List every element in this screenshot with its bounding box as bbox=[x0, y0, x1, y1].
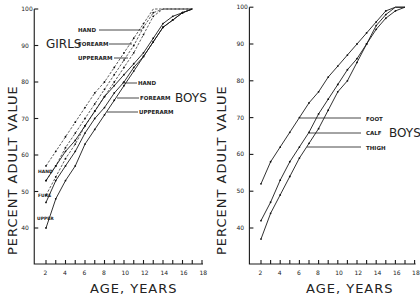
growth-charts: 40506070809010024681012141618 PERCENT AD… bbox=[0, 0, 420, 300]
data-point bbox=[113, 85, 115, 87]
data-point bbox=[113, 74, 115, 76]
y-tick-label: 40 bbox=[236, 224, 244, 231]
data-point bbox=[65, 150, 67, 152]
data-point bbox=[74, 121, 76, 123]
x-tick-label: 2 bbox=[259, 269, 263, 276]
y-tick-label: 70 bbox=[236, 114, 244, 121]
data-point bbox=[152, 41, 154, 43]
series-line bbox=[261, 7, 405, 184]
data-point bbox=[270, 212, 272, 214]
left-panel: 40506070809010024681012141618 PERCENT AD… bbox=[5, 5, 207, 296]
data-point bbox=[375, 21, 377, 23]
right-x-axis-label: AGE, YEARS bbox=[306, 281, 394, 296]
data-point bbox=[347, 54, 349, 56]
start-hand-label: HAND bbox=[38, 169, 53, 174]
x-tick-label: 10 bbox=[335, 269, 343, 276]
data-point bbox=[123, 74, 125, 76]
data-point bbox=[152, 37, 154, 39]
data-point bbox=[289, 161, 291, 163]
data-point bbox=[299, 146, 301, 148]
boys-label: BOYS bbox=[175, 91, 207, 105]
data-point bbox=[65, 180, 67, 182]
boys-upperarm-label: UPPERARM bbox=[139, 109, 174, 115]
data-point bbox=[260, 220, 262, 222]
data-point bbox=[104, 114, 106, 116]
data-point bbox=[270, 201, 272, 203]
x-tick-label: 4 bbox=[278, 269, 282, 276]
data-point bbox=[45, 227, 47, 229]
data-point bbox=[74, 150, 76, 152]
x-tick-label: 16 bbox=[393, 269, 401, 276]
calf-label: CALF bbox=[366, 130, 382, 136]
data-point bbox=[356, 43, 358, 45]
data-point bbox=[172, 19, 174, 21]
y-tick-label: 40 bbox=[21, 224, 29, 231]
data-point bbox=[318, 128, 320, 130]
data-point bbox=[113, 92, 115, 94]
data-point bbox=[113, 81, 115, 83]
x-tick-label: 16 bbox=[180, 269, 188, 276]
data-point bbox=[289, 176, 291, 178]
data-point bbox=[152, 12, 154, 14]
data-point bbox=[182, 12, 184, 14]
right-boys-label: BOYS bbox=[389, 126, 420, 140]
y-tick-label: 100 bbox=[21, 5, 33, 12]
data-point bbox=[143, 52, 145, 54]
data-point bbox=[133, 37, 135, 39]
girls-label: GIRLS bbox=[46, 37, 81, 51]
x-tick-label: 18 bbox=[200, 269, 208, 276]
data-point bbox=[308, 102, 310, 104]
y-tick-label: 60 bbox=[236, 150, 244, 157]
x-tick-label: 2 bbox=[44, 269, 48, 276]
y-tick-label: 50 bbox=[21, 188, 29, 195]
data-point bbox=[65, 136, 67, 138]
data-point bbox=[45, 202, 47, 204]
data-point bbox=[299, 157, 301, 159]
data-point bbox=[123, 67, 125, 69]
data-point bbox=[327, 109, 329, 111]
data-point bbox=[143, 23, 145, 25]
x-tick-label: 14 bbox=[161, 269, 169, 276]
data-point bbox=[356, 58, 358, 60]
data-point bbox=[55, 180, 57, 182]
data-point bbox=[133, 63, 135, 65]
right-y-axis-label: PERCENT ADULT VALUE bbox=[214, 85, 229, 255]
data-point bbox=[94, 129, 96, 131]
y-tick-label: 60 bbox=[21, 151, 29, 158]
data-point bbox=[45, 180, 47, 182]
data-point bbox=[347, 80, 349, 82]
data-point bbox=[84, 143, 86, 145]
data-point bbox=[104, 96, 106, 98]
data-point bbox=[172, 15, 174, 17]
data-point bbox=[55, 198, 57, 200]
girls-forearm-label: FOREARM bbox=[78, 41, 108, 47]
data-point bbox=[279, 194, 281, 196]
girls-upperarm-label: UPPERARM bbox=[78, 55, 113, 61]
data-point bbox=[279, 146, 281, 148]
data-point bbox=[123, 59, 125, 61]
x-tick-label: 14 bbox=[374, 269, 382, 276]
data-point bbox=[104, 81, 106, 83]
data-point bbox=[65, 147, 67, 149]
data-point bbox=[337, 65, 339, 67]
data-point bbox=[74, 140, 76, 142]
data-point bbox=[279, 179, 281, 181]
data-point bbox=[84, 132, 86, 134]
start-fore-label: FURE bbox=[38, 193, 51, 198]
data-point bbox=[356, 62, 358, 64]
data-point bbox=[55, 150, 57, 152]
data-point bbox=[347, 69, 349, 71]
boys-hand-label: HAND bbox=[138, 80, 156, 86]
data-point bbox=[385, 17, 387, 19]
data-point bbox=[84, 118, 86, 120]
data-point bbox=[337, 84, 339, 86]
start-upper-label: UPPER bbox=[37, 216, 54, 221]
data-point bbox=[318, 113, 320, 115]
data-point bbox=[104, 107, 106, 109]
y-tick-label: 100 bbox=[236, 3, 248, 10]
foot-label: FOOT bbox=[366, 116, 383, 122]
data-point bbox=[337, 91, 339, 93]
data-point bbox=[318, 91, 320, 93]
data-point bbox=[366, 32, 368, 34]
data-point bbox=[133, 52, 135, 54]
